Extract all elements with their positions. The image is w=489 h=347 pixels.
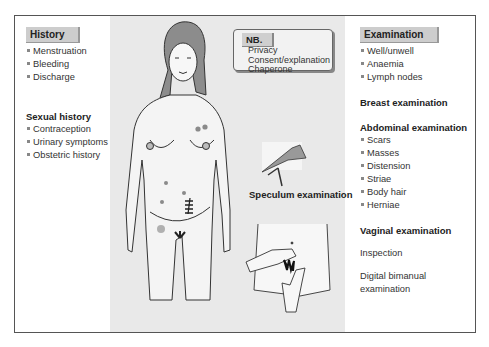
list-item: Masses	[360, 147, 480, 160]
female-body-figure	[126, 22, 230, 300]
axillary-mark	[195, 126, 200, 131]
speculum-illustration	[262, 142, 306, 186]
abdominal-mark	[164, 181, 168, 185]
list-item: Body hair	[360, 186, 480, 199]
torso	[126, 95, 230, 300]
sexual-history-heading: Sexual history	[26, 110, 126, 123]
list-item: Menstruation	[26, 45, 126, 58]
history-list: Menstruation Bleeding Discharge	[26, 45, 126, 84]
bullet-icon	[361, 203, 364, 206]
nb-note-box: NB. Privacy Consent/explanation Chaperon…	[233, 29, 333, 71]
speculum-examination-label: Speculum examination	[249, 189, 352, 200]
nb-list: Privacy Consent/explanation Chaperone	[248, 46, 330, 75]
list-item: Urinary symptoms	[26, 136, 126, 149]
axillary-mark	[202, 124, 207, 129]
bullet-icon	[361, 49, 364, 52]
bullet-icon	[361, 177, 364, 180]
list-item: Obstetric history	[26, 149, 126, 162]
examination-list: Well/unwell Anaemia Lymph nodes	[360, 45, 480, 84]
bullet-icon	[361, 190, 364, 193]
bullet-icon	[27, 153, 30, 156]
list-item: Chaperone	[248, 65, 330, 75]
bimanual-step: Digital bimanual examination	[360, 270, 440, 296]
right-nipple-mark	[203, 143, 210, 150]
list-item: Herniae	[360, 199, 480, 212]
bullet-icon	[27, 62, 30, 65]
list-item: Contraception	[26, 123, 126, 136]
bullet-icon	[27, 49, 30, 52]
bullet-icon	[361, 164, 364, 167]
examination-panel: Examination Well/unwell Anaemia Lymph no…	[360, 24, 480, 296]
sexual-history-list: Contraception Urinary symptoms Obstetric…	[26, 123, 126, 162]
bullet-icon	[27, 75, 30, 78]
abdominal-mark	[160, 200, 164, 204]
list-item: Striae	[360, 173, 480, 186]
vaginal-examination-heading: Vaginal examination	[360, 224, 480, 237]
list-item: Discharge	[26, 71, 126, 84]
inspection-step: Inspection	[360, 247, 480, 260]
abdominal-examination-heading: Abdominal examination	[360, 121, 480, 134]
list-item: Anaemia	[360, 58, 480, 71]
list-item: Well/unwell	[360, 45, 480, 58]
abdominal-examination-list: Scars Masses Distension Striae Body hair…	[360, 134, 480, 212]
breast-examination-heading: Breast examination	[360, 96, 480, 109]
abdominal-mark	[182, 191, 186, 195]
history-heading: History	[26, 27, 80, 43]
face	[169, 43, 197, 81]
examination-heading: Examination	[360, 27, 439, 43]
bullet-icon	[27, 140, 30, 143]
bullet-icon	[361, 151, 364, 154]
list-item: Lymph nodes	[360, 71, 480, 84]
bullet-icon	[361, 62, 364, 65]
history-panel: History Menstruation Bleeding Discharge …	[26, 24, 126, 162]
list-item: Bleeding	[26, 58, 126, 71]
bullet-icon	[361, 75, 364, 78]
inguinal-mass-mark	[157, 225, 165, 233]
bimanual-exam-illustration	[246, 224, 330, 312]
list-item: Scars	[360, 134, 480, 147]
list-item: Distension	[360, 160, 480, 173]
bullet-icon	[361, 138, 364, 141]
bullet-icon	[27, 127, 30, 130]
left-nipple-mark	[147, 143, 154, 150]
